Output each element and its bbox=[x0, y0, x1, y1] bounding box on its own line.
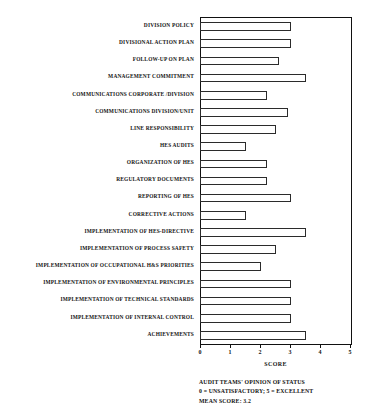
bar bbox=[200, 22, 291, 31]
bar bbox=[200, 177, 267, 186]
caption-line-mean-score: MEAN SCORE: 3.2 bbox=[199, 397, 364, 406]
caption-line-opinion: AUDIT TEAMS' OPINION OF STATUS bbox=[199, 378, 364, 387]
category-label: REPORTING OF HES bbox=[0, 189, 198, 206]
bar-slot bbox=[201, 172, 351, 189]
bar-slot bbox=[201, 138, 351, 155]
bar bbox=[200, 280, 291, 289]
bar-slot bbox=[201, 207, 351, 224]
bar bbox=[200, 314, 291, 323]
category-label: MANAGEMENT COMMITMENT bbox=[0, 68, 198, 85]
bar bbox=[200, 211, 246, 220]
chart-caption: AUDIT TEAMS' OPINION OF STATUS 0 = UNSAT… bbox=[199, 378, 364, 406]
x-axis-tick bbox=[260, 344, 261, 348]
x-axis-tick bbox=[350, 344, 351, 348]
bar-slot bbox=[201, 224, 351, 241]
category-label-column: DIVISION POLICYDIVISIONAL ACTION PLANFOL… bbox=[0, 17, 198, 343]
category-label: LINE RESPONSIBILITY bbox=[0, 120, 198, 137]
bar bbox=[200, 160, 267, 169]
bar bbox=[200, 142, 246, 151]
x-axis-tick bbox=[320, 344, 321, 348]
bar-slot bbox=[201, 310, 351, 327]
x-axis-tick-label: 1 bbox=[229, 349, 232, 355]
category-label: IMPLEMENTATION OF OCCUPATIONAL H&S PRIOR… bbox=[0, 257, 198, 274]
x-axis-tick-label: 0 bbox=[199, 349, 202, 355]
bar bbox=[200, 108, 288, 117]
category-label: IMPLEMENTATION OF HES-DIRECTIVE bbox=[0, 223, 198, 240]
category-label: REGULATORY DOCUMENTS bbox=[0, 171, 198, 188]
bar-slot bbox=[201, 327, 351, 344]
bar-slot bbox=[201, 258, 351, 275]
bar bbox=[200, 194, 291, 203]
bar-slot bbox=[201, 18, 351, 35]
plot-area bbox=[200, 17, 352, 345]
bar bbox=[200, 57, 279, 66]
bar bbox=[200, 262, 261, 271]
bar bbox=[200, 74, 306, 83]
bar-chart-figure: DIVISION POLICYDIVISIONAL ACTION PLANFOL… bbox=[0, 0, 368, 418]
category-label: IMPLEMENTATION OF INTERNAL CONTROL bbox=[0, 309, 198, 326]
category-label: COMMUNICATIONS DIVISION/UNIT bbox=[0, 103, 198, 120]
category-label: CORRECTIVE ACTIONS bbox=[0, 206, 198, 223]
category-label: HES AUDITS bbox=[0, 137, 198, 154]
caption-line-scale: 0 = UNSATISFACTORY; 5 = EXCELLENT bbox=[199, 387, 364, 396]
category-label: FOLLOW-UP ON PLAN bbox=[0, 51, 198, 68]
bar-slot bbox=[201, 275, 351, 292]
bar-slot bbox=[201, 52, 351, 69]
x-axis-tick bbox=[230, 344, 231, 348]
category-label: ACHIEVEMENTS bbox=[0, 326, 198, 343]
category-label: IMPLEMENTATION OF PROCESS SAFETY bbox=[0, 240, 198, 257]
bar bbox=[200, 297, 291, 306]
category-label: IMPLEMENTATION OF TECHNICAL STANDARDS bbox=[0, 292, 198, 309]
bar-slot bbox=[201, 121, 351, 138]
bar bbox=[200, 245, 276, 254]
bar bbox=[200, 125, 276, 134]
bar-slot bbox=[201, 69, 351, 86]
bar-slot bbox=[201, 190, 351, 207]
bar bbox=[200, 228, 306, 237]
bar-slot bbox=[201, 35, 351, 52]
bar-slot bbox=[201, 293, 351, 310]
category-label: DIVISION POLICY bbox=[0, 17, 198, 34]
x-axis-tick-label: 5 bbox=[349, 349, 352, 355]
bar bbox=[200, 91, 267, 100]
x-axis-tick-label: 4 bbox=[319, 349, 322, 355]
bar-slot bbox=[201, 104, 351, 121]
bar bbox=[200, 39, 291, 48]
category-label: IMPLEMENTATION OF ENVIRONMENTAL PRINCIPL… bbox=[0, 274, 198, 291]
bar-slot bbox=[201, 155, 351, 172]
x-axis-tick-label: 3 bbox=[289, 349, 292, 355]
category-label: DIVISIONAL ACTION PLAN bbox=[0, 34, 198, 51]
bar-slot bbox=[201, 87, 351, 104]
bar bbox=[200, 331, 306, 340]
x-axis-tick-label: 2 bbox=[259, 349, 262, 355]
x-axis-tick bbox=[200, 344, 201, 348]
bar-series bbox=[201, 18, 351, 344]
x-axis-tick bbox=[290, 344, 291, 348]
category-label: ORGANIZATION OF HES bbox=[0, 154, 198, 171]
bar-slot bbox=[201, 241, 351, 258]
category-label: COMMUNICATIONS CORPORATE /DIVISION bbox=[0, 86, 198, 103]
x-axis-title: SCORE bbox=[200, 361, 351, 367]
